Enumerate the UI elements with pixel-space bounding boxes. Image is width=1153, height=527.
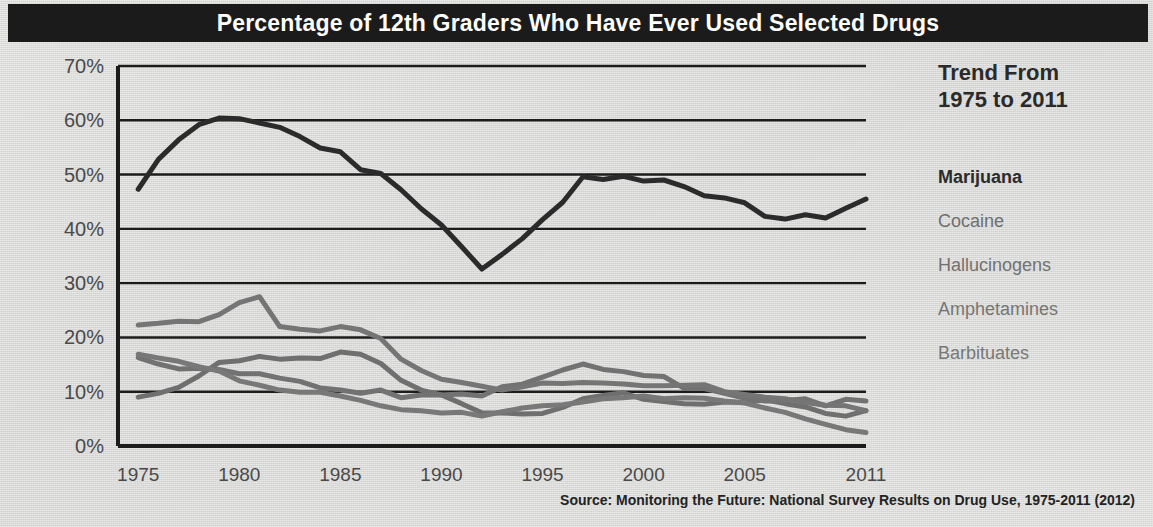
chart-legend: Trend From 1975 to 2011 MarijuanaCocaine… xyxy=(938,60,1148,388)
chart-page: Percentage of 12th Graders Who Have Ever… xyxy=(0,0,1153,527)
legend-item-cocaine: Cocaine xyxy=(938,212,1148,230)
page-title: Percentage of 12th Graders Who Have Ever… xyxy=(217,10,940,37)
x-tick-label: 2011 xyxy=(846,464,887,486)
x-tick-label: 1995 xyxy=(521,464,563,486)
x-tick-label: 2000 xyxy=(622,464,664,486)
legend-item-hallucinogens: Hallucinogens xyxy=(938,256,1148,274)
x-tick-label: 1975 xyxy=(117,464,159,486)
legend-item-list: MarijuanaCocaineHallucinogensAmphetamine… xyxy=(938,168,1148,362)
legend-item-marijuana: Marijuana xyxy=(938,168,1148,186)
source-note: Source: Monitoring the Future: National … xyxy=(560,492,1135,508)
legend-heading: Trend From 1975 to 2011 xyxy=(938,60,1148,114)
chart-title-bar: Percentage of 12th Graders Who Have Ever… xyxy=(8,4,1148,42)
legend-item-barbituates: Barbituates xyxy=(938,344,1148,362)
x-tick-label: 1985 xyxy=(319,464,361,486)
x-tick-label: 1990 xyxy=(420,464,462,486)
x-tick-label: 1980 xyxy=(218,464,260,486)
legend-item-amphetamines: Amphetamines xyxy=(938,300,1148,318)
x-tick-label: 2005 xyxy=(724,464,766,486)
